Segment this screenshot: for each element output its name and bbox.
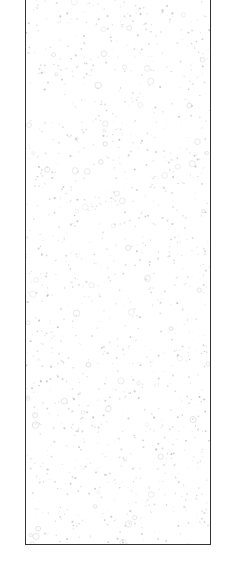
textured-panel xyxy=(25,0,211,545)
speckle-texture xyxy=(26,0,210,544)
